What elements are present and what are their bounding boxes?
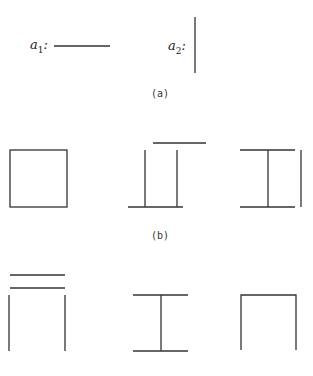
figure-c3-arch: [241, 295, 296, 350]
label-a2: a2:: [168, 38, 186, 56]
label-a2-name: a: [168, 38, 176, 53]
primitive-diagram: [0, 0, 313, 376]
figure-c2-i-beam: [133, 295, 188, 351]
label-a1: a1:: [30, 37, 48, 55]
figure-b1-square: [10, 150, 67, 207]
figure-b2: [128, 143, 206, 207]
caption-b: (b): [151, 230, 169, 241]
label-a1-colon: :: [44, 37, 48, 52]
label-a2-colon: :: [182, 38, 186, 53]
label-a1-name: a: [30, 37, 38, 52]
caption-a: (a): [151, 88, 169, 99]
figure-c1: [9, 275, 65, 351]
figure-b3: [240, 150, 301, 207]
